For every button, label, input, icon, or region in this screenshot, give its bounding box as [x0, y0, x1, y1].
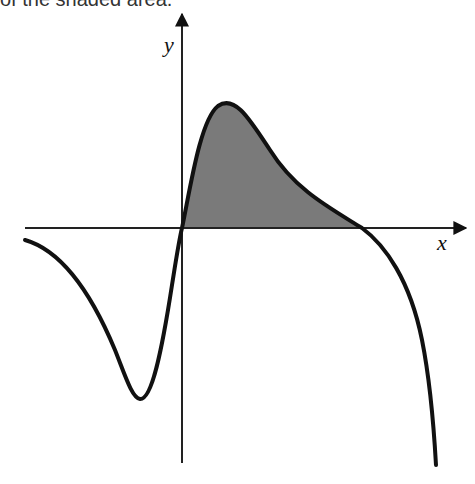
y-axis-label: y [162, 32, 174, 57]
graph: y x [0, 0, 475, 484]
x-axis-label: x [436, 230, 447, 255]
